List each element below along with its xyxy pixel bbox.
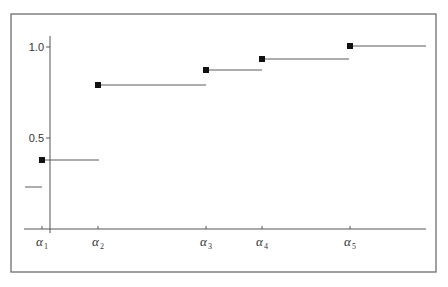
chart: 1.0 0.5 α 1 α 2 α 3 α 4 α 5 [0,0,448,287]
svg-text:1: 1 [44,242,48,251]
x-tick-alpha-4: α 4 [256,226,268,251]
svg-text:α: α [256,234,264,249]
x-tick-alpha-2: α 2 [92,226,104,251]
step-alpha-5 [347,43,426,49]
data-marker [259,56,265,62]
data-marker [203,67,209,73]
y-tick-1.0: 1.0 [29,41,50,53]
step-alpha-2 [95,82,206,88]
data-marker [39,157,45,163]
data-marker [347,43,353,49]
step-alpha-1 [39,157,99,163]
y-tick-label: 0.5 [29,132,44,144]
x-tick-alpha-1: α 1 [36,226,48,251]
y-tick-label: 1.0 [29,41,44,53]
chart-frame [11,14,436,272]
svg-text:α: α [36,234,44,249]
svg-text:5: 5 [352,242,356,251]
x-tick-alpha-5: α 5 [344,226,356,251]
svg-text:α: α [200,234,208,249]
step-alpha-4 [259,56,349,62]
svg-text:2: 2 [100,242,104,251]
data-marker [95,82,101,88]
svg-text:α: α [344,234,352,249]
y-tick-0.5: 0.5 [29,132,50,144]
step-alpha-3 [203,67,262,73]
x-tick-alpha-3: α 3 [200,226,212,251]
svg-text:α: α [92,234,100,249]
svg-text:4: 4 [264,242,268,251]
svg-text:3: 3 [208,242,212,251]
